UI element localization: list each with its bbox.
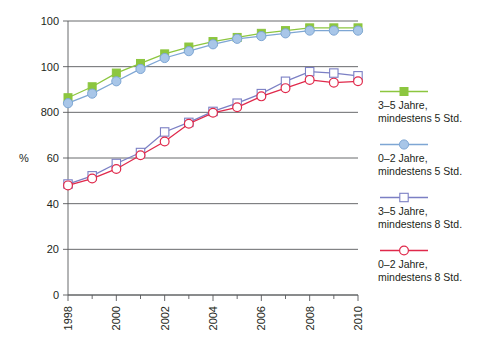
data-series <box>64 76 363 190</box>
data-point-marker <box>209 108 218 117</box>
data-point-marker <box>329 26 338 35</box>
x-tick-label: 2000 <box>110 306 122 330</box>
data-point-marker <box>330 69 338 77</box>
data-point-marker <box>233 34 242 43</box>
data-point-marker <box>354 77 363 86</box>
data-point-marker <box>399 140 408 149</box>
legend-label: 3–5 Jahre, mindestens 5 Std. <box>378 99 488 124</box>
data-point-marker <box>305 26 314 35</box>
data-point-marker <box>112 165 121 174</box>
data-point-marker <box>136 64 145 73</box>
data-point-marker <box>257 31 266 40</box>
data-point-marker <box>136 151 145 160</box>
x-tick-label: 2002 <box>159 306 171 330</box>
data-point-marker <box>88 174 97 183</box>
series-line <box>68 72 358 184</box>
data-point-marker <box>400 193 408 201</box>
data-point-marker <box>257 92 266 101</box>
data-point-marker <box>400 88 408 96</box>
legend-item[interactable]: 0–2 Jahre, mindestens 8 Std. <box>378 243 488 283</box>
data-point-marker <box>305 76 314 85</box>
x-tick-label: 1998 <box>62 306 74 330</box>
x-tick-label: 2010 <box>352 306 364 330</box>
legend-item[interactable]: 3–5 Jahre, mindestens 5 Std. <box>378 84 488 124</box>
chart-legend: 3–5 Jahre, mindestens 5 Std.0–2 Jahre, m… <box>378 84 488 296</box>
legend-item[interactable]: 3–5 Jahre, mindestens 8 Std. <box>378 190 488 230</box>
legend-marker-filled-circle-icon <box>378 137 488 150</box>
y-tick-label: 40 <box>47 198 59 210</box>
data-point-marker <box>112 69 120 77</box>
chart-container: 1001008006040200%19982000200220042006200… <box>0 0 488 345</box>
y-axis-title: % <box>19 152 29 164</box>
legend-item[interactable]: 0–2 Jahre, mindestens 5 Std. <box>378 137 488 177</box>
legend-marker-open-square-icon <box>378 190 488 203</box>
data-point-marker <box>112 77 121 86</box>
data-point-marker <box>184 119 193 128</box>
data-point-marker <box>305 67 313 75</box>
data-point-marker <box>160 128 168 136</box>
y-tick-label: 100 <box>41 15 59 27</box>
data-point-marker <box>160 53 169 62</box>
data-series <box>64 24 362 102</box>
legend-label: 3–5 Jahre, mindestens 8 Std. <box>378 205 488 230</box>
data-point-marker <box>88 89 97 98</box>
x-tick-label: 2006 <box>255 306 267 330</box>
data-point-marker <box>400 246 409 255</box>
legend-label: 0–2 Jahre, mindestens 8 Std. <box>378 258 488 283</box>
y-tick-label: 100 <box>41 61 59 73</box>
legend-label: 0–2 Jahre, mindestens 5 Std. <box>378 152 488 177</box>
y-tick-label: 800 <box>41 106 59 118</box>
legend-marker-filled-square-icon <box>378 84 488 97</box>
data-point-marker <box>353 26 362 35</box>
data-point-marker <box>281 29 290 38</box>
x-tick-label: 2008 <box>304 306 316 330</box>
y-tick-label: 20 <box>47 243 59 255</box>
legend-marker-open-circle-icon <box>378 243 488 256</box>
data-point-marker <box>329 78 338 87</box>
data-point-marker <box>281 84 290 93</box>
data-point-marker <box>64 181 73 190</box>
x-tick-label: 2004 <box>207 306 219 330</box>
data-point-marker <box>160 137 169 146</box>
data-point-marker <box>63 99 72 108</box>
data-point-marker <box>233 103 242 112</box>
y-tick-label: 0 <box>53 289 59 301</box>
y-tick-label: 60 <box>47 152 59 164</box>
data-point-marker <box>184 47 193 56</box>
data-point-marker <box>208 40 217 49</box>
